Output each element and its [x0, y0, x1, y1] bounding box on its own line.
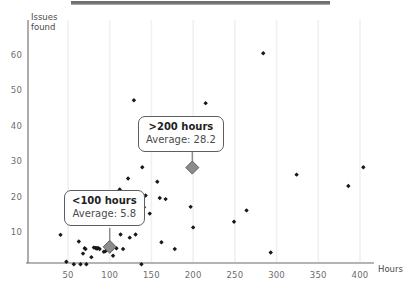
x-axis-title: Hours — [378, 264, 403, 274]
callout-under-100-title: <100 hours — [72, 195, 137, 207]
x-tick-350: 350 — [310, 270, 327, 280]
y-tick-60: 60 — [6, 50, 22, 60]
data-point-group — [58, 51, 365, 266]
y-axis-title: Issues found — [31, 12, 57, 32]
y-tick-20: 20 — [6, 192, 22, 202]
x-tick-100: 100 — [101, 270, 118, 280]
y-tick-30: 30 — [6, 156, 22, 166]
x-tick-400: 400 — [352, 270, 369, 280]
callout-over-200-average: Average: 28.2 — [146, 133, 216, 146]
callout-over-200-hours[interactable]: >200 hours Average: 28.2 — [138, 116, 224, 152]
x-tick-50: 50 — [62, 270, 73, 280]
y-tick-40: 40 — [6, 121, 22, 131]
y-axis-title-line2: found — [31, 22, 57, 32]
scatter-chart: 102030405060 50100150200250300350400 Iss… — [0, 0, 411, 298]
callout-under-100-hours[interactable]: <100 hours Average: 5.8 — [64, 190, 145, 226]
y-tick-10: 10 — [6, 227, 22, 237]
x-tick-300: 300 — [268, 270, 285, 280]
callout-over-200-title: >200 hours — [146, 121, 216, 133]
callout-under-100-average: Average: 5.8 — [72, 207, 137, 220]
x-tick-150: 150 — [143, 270, 160, 280]
y-axis-title-line1: Issues — [31, 12, 57, 22]
x-tick-250: 250 — [226, 270, 243, 280]
y-tick-50: 50 — [6, 85, 22, 95]
x-tick-200: 200 — [185, 270, 202, 280]
